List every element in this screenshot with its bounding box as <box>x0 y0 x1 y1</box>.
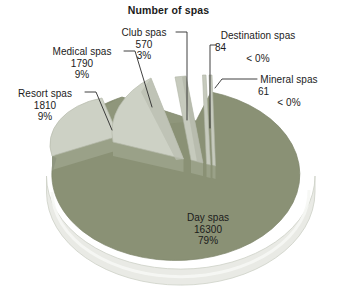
slice-label-destination-spas-name: Destination spas <box>215 30 301 42</box>
slice-label-destination-spas: Destination spas 84 < 0% <box>215 30 313 65</box>
slice-label-resort-spas-percent: 9% <box>6 111 84 123</box>
slice-label-day-spas-value: 16300 <box>166 224 250 236</box>
slice-label-day-spas-percent: 79% <box>166 235 250 247</box>
slice-label-medical-spas-percent: 9% <box>40 69 124 81</box>
slice-label-mineral-spas: Mineral spas 61 < 0% <box>258 74 334 109</box>
slice-label-resort-spas-name: Resort spas <box>6 88 84 100</box>
slice-label-mineral-spas-value: 61 <box>258 86 334 98</box>
slice-mineral-spas-side <box>213 165 216 179</box>
slice-label-day-spas: Day spas 16300 79% <box>166 212 250 247</box>
chart-title: Number of spas <box>0 4 337 16</box>
slice-label-club-spas-name: Club spas <box>108 27 180 39</box>
leader-line-mineral <box>215 79 257 88</box>
slice-label-mineral-spas-percent: < 0% <box>258 97 320 109</box>
slice-label-medical-spas-name: Medical spas <box>40 46 124 58</box>
slice-label-medical-spas: Medical spas 1790 9% <box>40 46 124 81</box>
slice-label-day-spas-name: Day spas <box>166 212 250 224</box>
chart-canvas: Number of spas Club spas 570 3% Medical … <box>0 0 337 286</box>
slice-label-resort-spas-value: 1810 <box>6 100 84 112</box>
slice-label-resort-spas: Resort spas 1810 9% <box>6 88 84 123</box>
slice-label-destination-spas-percent: < 0% <box>215 53 301 65</box>
slice-label-destination-spas-value: 84 <box>215 42 313 54</box>
slice-label-medical-spas-value: 1790 <box>40 58 124 70</box>
slice-label-mineral-spas-name: Mineral spas <box>258 74 320 86</box>
slice-destination-spas-side <box>207 164 211 178</box>
